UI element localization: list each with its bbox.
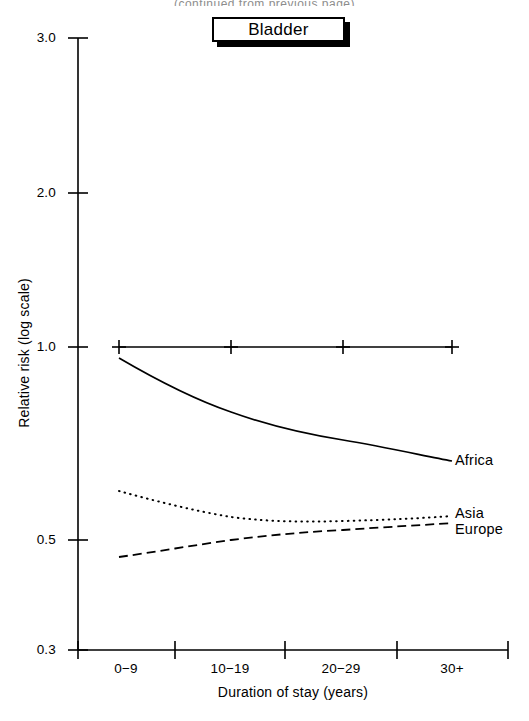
x-tick-label-20-29: 20−29 — [286, 661, 396, 676]
x-tick-label-30plus: 30+ — [397, 661, 507, 676]
y-tick-label-0_5: 0.5 — [12, 532, 56, 547]
y-tick-label-2: 2.0 — [12, 185, 56, 200]
y-tick-label-3: 3.0 — [12, 30, 56, 45]
y-axis-title: Relative risk (log scale) — [16, 243, 32, 463]
reference-line-series — [112, 340, 459, 354]
series-label-asia: Asia — [455, 505, 484, 521]
x-tick-label-10-19: 10−19 — [175, 661, 285, 676]
series-line-asia — [119, 491, 452, 522]
series-line-europe — [119, 523, 452, 557]
series-label-europe: Europe — [455, 521, 503, 537]
y-tick-label-0_3: 0.3 — [12, 642, 56, 657]
series-label-africa: Africa — [455, 452, 493, 468]
chart-title: Bladder — [214, 19, 343, 40]
chart-title-box: Bladder — [212, 17, 345, 42]
chart-canvas — [0, 0, 529, 721]
x-axis-title: Duration of stay (years) — [78, 684, 508, 700]
series-line-africa — [119, 358, 452, 461]
x-tick-label-0-9: 0−9 — [71, 661, 181, 676]
